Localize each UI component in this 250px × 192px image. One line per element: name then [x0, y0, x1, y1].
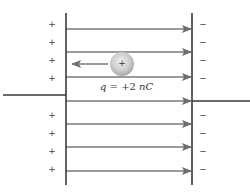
plus-sign-icon: +	[47, 147, 57, 156]
plus-sign-icon: +	[47, 111, 57, 120]
charge-value: = +2	[106, 81, 139, 92]
charge-unit: nC	[139, 81, 153, 92]
minus-sign-icon: −	[198, 165, 208, 174]
connecting-wires	[3, 95, 250, 101]
minus-sign-icon: −	[198, 74, 208, 83]
electric-field-lines	[66, 29, 191, 171]
minus-sign-icon: −	[198, 38, 208, 47]
minus-sign-icon: −	[198, 111, 208, 120]
plus-sign-icon: +	[47, 129, 57, 138]
plus-sign-icon: +	[47, 165, 57, 174]
minus-sign-icon: −	[198, 129, 208, 138]
minus-sign-icon: −	[198, 56, 208, 65]
capacitor-plates	[66, 13, 192, 185]
minus-sign-icon: −	[198, 147, 208, 156]
plus-sign-icon: +	[47, 56, 57, 65]
capacitor-field-diagram: ++++++++ −−−−−−−− + q = +2 nC	[0, 0, 250, 192]
plus-sign-icon: +	[47, 20, 57, 29]
charge-label: q = +2 nC	[100, 81, 153, 92]
diagram-canvas	[0, 0, 250, 192]
plus-sign-icon: +	[47, 74, 57, 83]
charge-sign-icon: +	[117, 59, 127, 68]
plus-sign-icon: +	[47, 38, 57, 47]
minus-sign-icon: −	[198, 20, 208, 29]
